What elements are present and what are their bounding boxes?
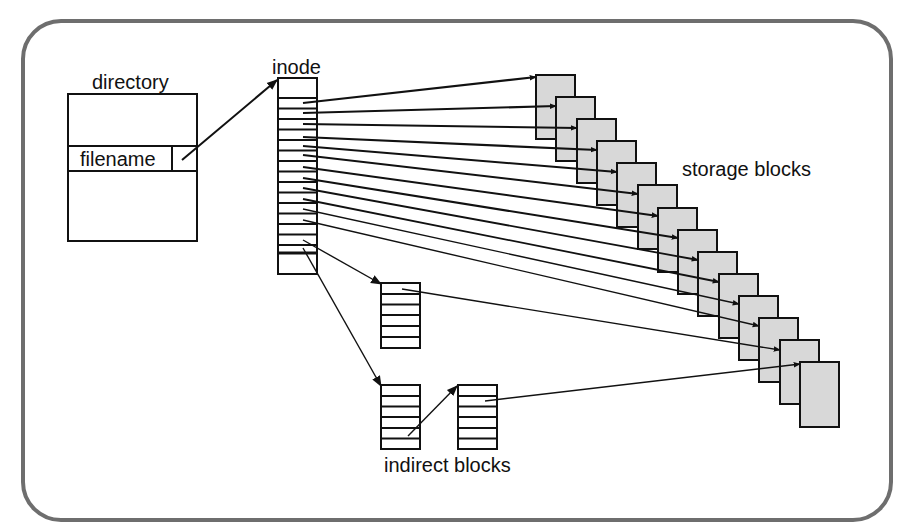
inode: inode <box>272 56 321 274</box>
storage-blocks-label: storage blocks <box>682 158 811 180</box>
storage-blocks <box>536 75 839 427</box>
filename-label: filename <box>80 148 156 170</box>
storage-block <box>800 362 839 427</box>
double-indirect-block-2 <box>458 385 497 449</box>
indirect-blocks-label: indirect blocks <box>384 454 511 476</box>
directory-label: directory <box>92 71 169 93</box>
double-indirect-block-1 <box>381 385 420 449</box>
directory: directory filename <box>68 71 197 241</box>
double-indirect-arrow <box>303 248 381 386</box>
single-indirect-block <box>381 283 420 348</box>
double-indirect-to-block-arrow <box>485 364 800 401</box>
inode-label: inode <box>272 56 321 78</box>
inode-diagram: directory filename inode <box>0 0 909 531</box>
